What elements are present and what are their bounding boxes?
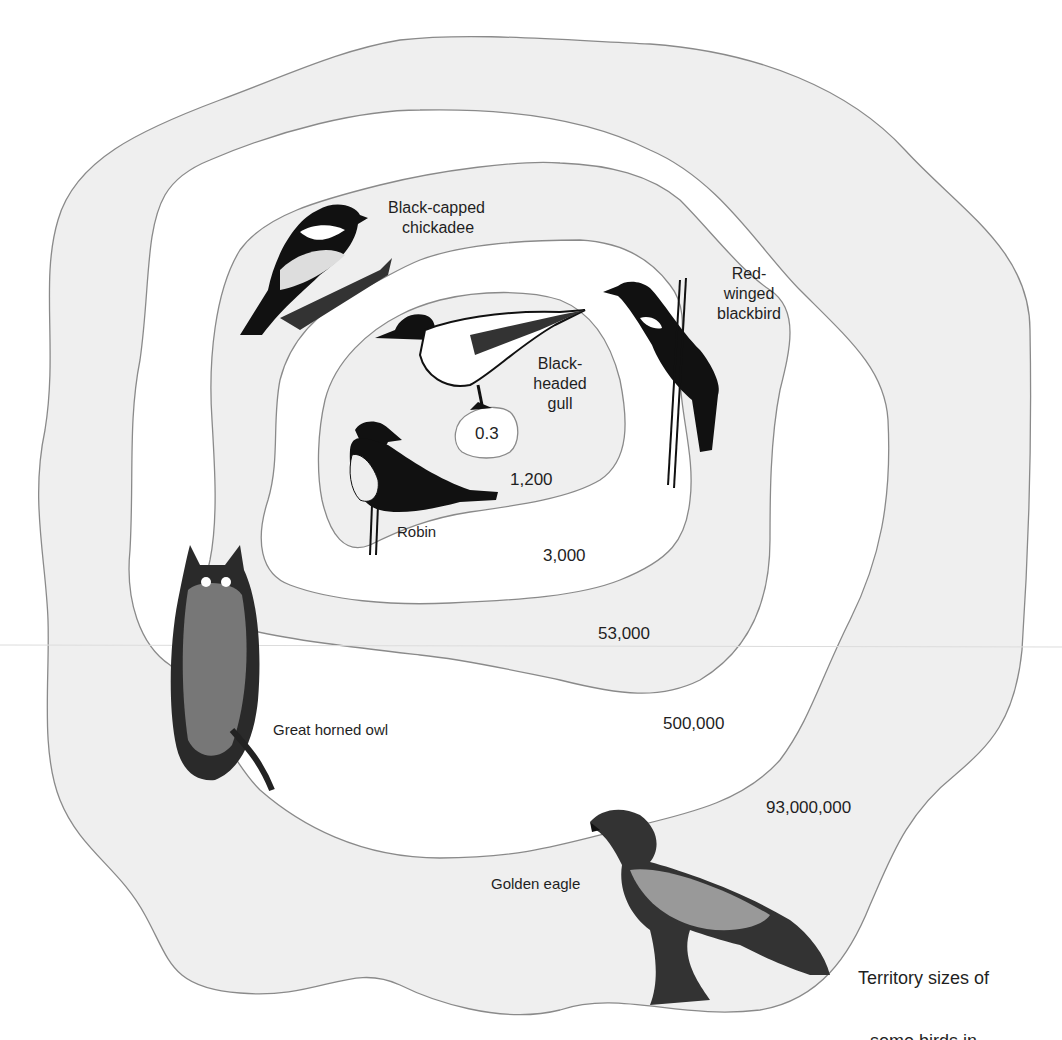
label-line: Red- [704, 264, 794, 284]
diagram-caption: Territory sizes of some birds in square … [858, 926, 1016, 1040]
value-robin: 1,200 [510, 470, 553, 490]
label-great-horned-owl: Great horned owl [273, 720, 388, 740]
caption-line: Territory sizes of [858, 968, 1016, 989]
label-line: winged [704, 284, 794, 304]
label-red-winged-blackbird: Red- winged blackbird [704, 264, 794, 324]
label-line: gull [520, 394, 600, 414]
label-line: Robin [397, 522, 436, 542]
label-black-headed-gull: Black- headed gull [520, 354, 600, 414]
label-black-capped-chickadee: Black-capped chickadee [388, 198, 485, 238]
label-golden-eagle: Golden eagle [491, 874, 580, 894]
value-black-capped-chickadee: 3,000 [543, 546, 586, 566]
label-line: Great horned owl [273, 720, 388, 740]
value-great-horned-owl: 500,000 [663, 714, 724, 734]
value-red-winged-blackbird: 53,000 [598, 624, 650, 644]
caption-line: some birds in [858, 1031, 1016, 1040]
label-robin: Robin [397, 522, 436, 542]
label-line: blackbird [704, 304, 794, 324]
label-line: Black-capped [388, 198, 485, 218]
label-line: Golden eagle [491, 874, 580, 894]
value-golden-eagle: 93,000,000 [766, 798, 851, 818]
label-line: chickadee [388, 218, 485, 238]
value-black-headed-gull: 0.3 [475, 424, 499, 444]
label-line: headed [520, 374, 600, 394]
label-line: Black- [520, 354, 600, 374]
